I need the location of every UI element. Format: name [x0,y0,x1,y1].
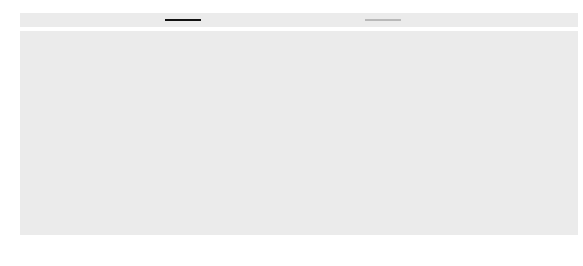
legend-item-nominal-price [165,13,206,27]
legend-swatch-nominal-icon [165,19,201,21]
legend-item-real-price [365,13,406,27]
plot-svg [20,31,578,235]
chart-legend [20,13,578,27]
legend-swatch-real-icon [365,19,401,21]
plot-area [20,31,578,235]
x-axis [20,235,578,266]
chart-root [0,0,583,266]
y-axis [0,31,20,235]
